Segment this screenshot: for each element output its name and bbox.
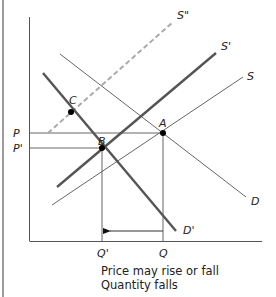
point-c xyxy=(68,109,74,115)
diagram-caption: Price may rise or fall Quantity falls xyxy=(101,264,219,292)
label-p: P xyxy=(13,127,20,140)
label-q-prime: Q' xyxy=(97,247,109,260)
supply-demand-diagram: S" S' S D D' A B C P P' Q' Q Price may r… xyxy=(0,0,276,297)
label-p-prime: P' xyxy=(13,142,23,155)
caption-quantity-line: Quantity falls xyxy=(101,278,219,292)
supply-curve-s-double-prime xyxy=(48,22,173,133)
label-s-prime: S' xyxy=(221,40,231,53)
demand-curve-d-prime xyxy=(43,73,176,231)
label-s-double-prime: S" xyxy=(177,9,189,22)
supply-curve-s-prime xyxy=(57,53,216,187)
label-s: S xyxy=(247,70,254,83)
label-d-prime: D' xyxy=(183,224,195,237)
label-a: A xyxy=(158,117,167,130)
caption-price-line: Price may rise or fall xyxy=(101,264,219,278)
label-b: B xyxy=(98,135,106,148)
label-d: D xyxy=(251,195,259,208)
label-c: C xyxy=(69,94,77,107)
label-q: Q xyxy=(159,247,168,260)
point-a xyxy=(160,130,166,136)
supply-curve-s xyxy=(52,77,243,205)
diagram-canvas: S" S' S D D' A B C P P' Q' Q xyxy=(0,0,276,297)
